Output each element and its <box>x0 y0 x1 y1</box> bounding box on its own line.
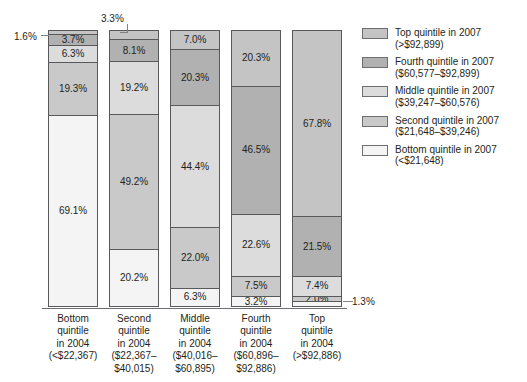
legend-label-line2: (>$92,899) <box>395 39 481 51</box>
segment-value-label: 8.1% <box>123 46 145 56</box>
bar-4-segment-fourth: 46.5% <box>232 87 280 215</box>
legend-label-fourth: Fourth quintile in 2007($60,577–$92,899) <box>395 56 494 79</box>
legend-item-second: Second quintile in 2007($21,648–$39,246) <box>362 115 527 138</box>
category-label-5: Topquintilein 2004(>$92,886) <box>277 313 357 363</box>
legend-label-line1: Bottom quintile in 2007 <box>395 144 497 156</box>
bar-5-segment-fourth: 21.5% <box>293 217 341 276</box>
bar-2-segment-fourth: 8.1% <box>110 40 158 62</box>
bar-3-segment-bottom: 6.3% <box>171 289 219 306</box>
legend-swatch-second <box>362 116 388 127</box>
bar-4-segment-top: 20.3% <box>232 31 280 87</box>
bar-5-segment-top: 67.8% <box>293 31 341 217</box>
segment-value-label: 19.2% <box>120 83 148 93</box>
segment-value-label: 7.0% <box>184 35 206 45</box>
legend-label-line2: ($21,648–$39,246) <box>395 126 499 138</box>
callout-leader-line <box>41 35 49 36</box>
bar-4-segment-second: 7.5% <box>232 277 280 298</box>
bar-column-4: 20.3%46.5%22.6%7.5%3.2% <box>231 30 281 307</box>
segment-value-label: 3.2% <box>245 297 267 306</box>
legend-label-line1: Fourth quintile in 2007 <box>395 56 494 68</box>
legend-label-line2: (<$21,648) <box>395 155 497 167</box>
callout-bar1-top: 1.6% <box>14 31 37 42</box>
category-label-line: (>$92,886) <box>277 350 357 362</box>
segment-value-label: 3.7% <box>62 35 84 45</box>
callout-bar5-bottom: 1.3% <box>352 296 375 307</box>
segment-value-label: 49.2% <box>120 177 148 187</box>
callout-leader-line <box>120 32 128 33</box>
segment-value-label: 22.6% <box>242 240 270 250</box>
bar-5-segment-middle: 7.4% <box>293 277 341 297</box>
segment-value-label: 6.3% <box>62 49 84 59</box>
segment-value-label: 7.5% <box>245 281 267 291</box>
callout-bar2-top: 3.3% <box>101 13 124 24</box>
bar-5-segment-bottom: 1.3% <box>293 302 341 306</box>
legend-item-top: Top quintile in 2007(>$92,899) <box>362 27 527 50</box>
segment-value-label: 20.2% <box>120 273 148 283</box>
bar-4-segment-middle: 22.6% <box>232 215 280 277</box>
legend-label-line1: Top quintile in 2007 <box>395 27 481 39</box>
segment-value-label: 44.4% <box>181 162 209 172</box>
bar-1-segment-bottom: 69.1% <box>49 116 97 306</box>
segment-value-label: 46.5% <box>242 145 270 155</box>
callout-leader-line <box>343 301 353 302</box>
bar-2-segment-top: 3.3% <box>110 31 158 40</box>
segment-value-label: 19.3% <box>59 84 87 94</box>
legend-label-line1: Second quintile in 2007 <box>395 115 499 127</box>
bar-3-segment-middle: 44.4% <box>171 106 219 228</box>
category-label-line: Top <box>277 313 357 325</box>
category-label-line: in 2004 <box>277 338 357 350</box>
legend-swatch-fourth <box>362 57 388 68</box>
segment-value-label: 22.0% <box>181 253 209 263</box>
legend-item-middle: Middle quintile in 2007($39,247–$60,576) <box>362 85 527 108</box>
legend-label-line1: Middle quintile in 2007 <box>395 85 495 97</box>
segment-value-label: 69.1% <box>59 206 87 216</box>
bar-3-segment-second: 22.0% <box>171 228 219 289</box>
legend-label-line2: ($60,577–$92,899) <box>395 68 494 80</box>
legend-label-line2: ($39,247–$60,576) <box>395 97 495 109</box>
legend-swatch-top <box>362 28 388 39</box>
segment-value-label: 20.3% <box>181 73 209 83</box>
stacked-bar-chart: 1.6%3.7%6.3%19.3%69.1%3.3%8.1%19.2%49.2%… <box>0 0 527 382</box>
bar-2-segment-second: 49.2% <box>110 115 158 250</box>
bar-1-segment-second: 19.3% <box>49 63 97 116</box>
segment-value-label: 20.3% <box>242 53 270 63</box>
bar-column-1: 1.6%3.7%6.3%19.3%69.1% <box>48 30 98 307</box>
bar-2-segment-middle: 19.2% <box>110 62 158 115</box>
bar-4-segment-bottom: 3.2% <box>232 297 280 306</box>
segment-value-label: 21.5% <box>303 242 331 252</box>
x-axis-line <box>42 308 347 309</box>
legend-item-fourth: Fourth quintile in 2007($60,577–$92,899) <box>362 56 527 79</box>
legend-label-top: Top quintile in 2007(>$92,899) <box>395 27 481 50</box>
legend-label-middle: Middle quintile in 2007($39,247–$60,576) <box>395 85 495 108</box>
category-label-line: quintile <box>277 325 357 337</box>
category-label-line: $92,886) <box>216 363 296 375</box>
segment-value-label: 7.4% <box>306 281 328 291</box>
bar-1-segment-middle: 6.3% <box>49 46 97 63</box>
bar-column-2: 3.3%8.1%19.2%49.2%20.2% <box>109 30 159 307</box>
legend-item-bottom: Bottom quintile in 2007(<$21,648) <box>362 144 527 167</box>
plot-area: 1.6%3.7%6.3%19.3%69.1%3.3%8.1%19.2%49.2%… <box>0 0 360 382</box>
bar-2-segment-bottom: 20.2% <box>110 250 158 306</box>
legend-swatch-bottom <box>362 145 388 156</box>
bar-column-3: 7.0%20.3%44.4%22.0%6.3% <box>170 30 220 307</box>
segment-value-label: 67.8% <box>303 119 331 129</box>
legend-swatch-middle <box>362 86 388 97</box>
legend-label-bottom: Bottom quintile in 2007(<$21,648) <box>395 144 497 167</box>
bar-column-5: 67.8%21.5%7.4%2.0%1.3% <box>292 30 342 307</box>
chart-legend: Top quintile in 2007(>$92,899)Fourth qui… <box>362 27 527 173</box>
segment-value-label: 6.3% <box>184 292 206 302</box>
legend-label-second: Second quintile in 2007($21,648–$39,246) <box>395 115 499 138</box>
bar-3-segment-fourth: 20.3% <box>171 50 219 106</box>
bar-1-segment-fourth: 3.7% <box>49 35 97 45</box>
bar-3-segment-top: 7.0% <box>171 31 219 50</box>
